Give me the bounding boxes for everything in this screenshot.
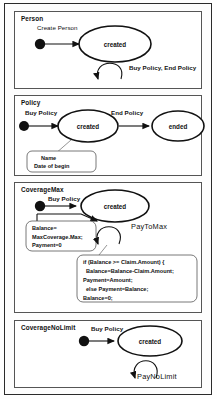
state-machine-coveragemax: CoverageMax Buy Policy PayToMax created … xyxy=(14,182,202,313)
coveragemax-diagram-graphics: created Balance= MaxCoverage.Max; Paymen… xyxy=(15,183,203,314)
person-diagram-graphics: created xyxy=(15,12,203,90)
state-machine-policy: Policy Buy Policy End Policy created end… xyxy=(14,95,202,176)
initial-state-dot xyxy=(79,336,89,346)
state-machine-coveragenolimit: CoverageNoLimit Buy Policy PayNoLimit cr… xyxy=(14,320,202,388)
note-line: Date of begin xyxy=(34,163,70,169)
note-line: Name xyxy=(41,155,56,161)
self-transition-loop xyxy=(134,361,157,378)
initial-state-dot xyxy=(19,121,29,131)
state-label-ended: ended xyxy=(169,123,188,130)
state-label-created: created xyxy=(77,123,100,130)
note-line: else Payment=Balance; xyxy=(86,286,148,292)
diagram-canvas: Person Create Person created Buy Policy,… xyxy=(0,0,217,399)
note-line: Balance=0; xyxy=(83,295,113,301)
state-label-created: created xyxy=(104,203,127,210)
note-line: Balance= xyxy=(32,225,57,231)
note-line: Payment=0 xyxy=(32,242,62,248)
state-label-created: created xyxy=(104,41,127,48)
initial-state-dot xyxy=(35,201,45,211)
coveragenolimit-diagram-graphics: created xyxy=(15,321,203,389)
initial-state-dot xyxy=(35,39,45,49)
self-transition-loop xyxy=(97,227,121,244)
note-line: Payment=Amount; xyxy=(83,277,133,283)
note-line: MaxCoverage.Max; xyxy=(32,234,83,240)
note-line: if (Balance >= Claim.Amount) { xyxy=(83,259,165,265)
self-transition-loop xyxy=(97,63,122,79)
policy-diagram-graphics: created ended Name Date of begin xyxy=(15,96,203,177)
self-transition-label-person: Buy Policy, End Policy xyxy=(129,64,196,71)
state-machine-person: Person Create Person created Buy Policy,… xyxy=(14,11,202,89)
state-label-created: created xyxy=(139,338,162,345)
note-line: Balance=Balance-Claim.Amount; xyxy=(86,268,174,274)
